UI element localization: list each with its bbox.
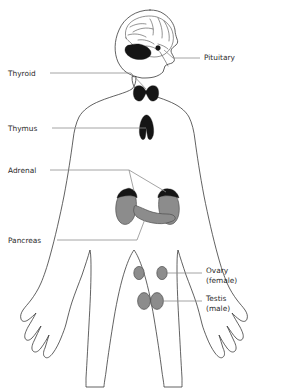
pituitary-gland bbox=[156, 46, 161, 51]
label-adrenal: Adrenal bbox=[8, 166, 36, 175]
label-thymus: Thymus bbox=[7, 124, 37, 133]
ovary-right bbox=[157, 266, 167, 279]
label-testis-line2: (male) bbox=[206, 304, 230, 313]
ovary-left bbox=[134, 266, 144, 279]
label-pituitary: Pituitary bbox=[204, 53, 235, 62]
label-thyroid: Thyroid bbox=[7, 69, 36, 78]
endocrine-system-diagram: Pituitary Thyroid Thymus Adrenal Pancrea… bbox=[0, 0, 281, 388]
label-testis-line1: Testis bbox=[205, 294, 227, 303]
label-pancreas: Pancreas bbox=[8, 236, 41, 245]
label-ovary-line1: Ovary bbox=[206, 266, 229, 275]
diagram-canvas: Pituitary Thyroid Thymus Adrenal Pancrea… bbox=[0, 0, 281, 388]
testis-left bbox=[138, 293, 151, 310]
testis-right bbox=[151, 293, 164, 310]
label-ovary-line2: (female) bbox=[206, 276, 237, 285]
